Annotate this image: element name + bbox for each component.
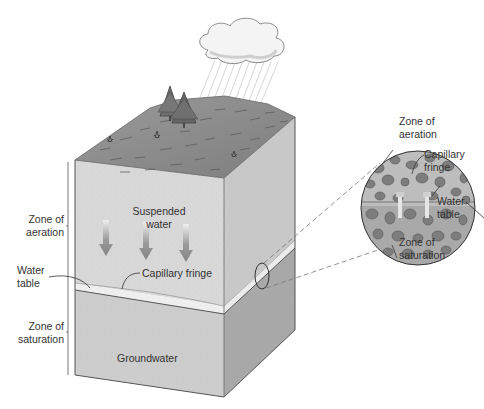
zone-of-saturation-line1: Zone of (0, 320, 64, 333)
inset-capillary-fringe-line2: fringe (424, 161, 465, 174)
inset-water-table-line2: table (437, 208, 465, 221)
zone-of-aeration-line1: Zone of (2, 213, 64, 226)
inset-zone-of-saturation-line2: saturation (399, 249, 445, 262)
zone-of-aeration-line2: aeration (2, 226, 64, 239)
inset-zone-of-aeration-line2: aeration (399, 128, 437, 141)
water-table-label: Water table (17, 264, 45, 289)
inset-water-table-line1: Water (437, 195, 465, 208)
inset-capillary-fringe-label: Capillary fringe (424, 148, 465, 173)
suspended-water-line1: Suspended (119, 205, 199, 218)
inset-capillary-fringe-line1: Capillary (424, 148, 465, 161)
inset-zone-of-aeration-line1: Zone of (399, 115, 437, 128)
zone-of-aeration-label: Zone of aeration (2, 213, 64, 238)
inset-water-table-label: Water table (437, 195, 465, 220)
zone-brackets (66, 162, 68, 375)
inset-zone-of-saturation-label: Zone of saturation (399, 236, 445, 261)
groundwater-diagram (0, 0, 484, 409)
water-table-line2: table (17, 277, 45, 290)
inset-zone-of-saturation-line1: Zone of (399, 236, 445, 249)
inset-zone-of-aeration-label: Zone of aeration (399, 115, 437, 140)
zone-of-saturation-line2: saturation (0, 333, 64, 346)
water-table-line1: Water (17, 264, 45, 277)
capillary-fringe-label: Capillary fringe (142, 267, 212, 280)
zone-of-saturation-label: Zone of saturation (0, 320, 64, 345)
suspended-water-line2: water (119, 218, 199, 231)
groundwater-label: Groundwater (117, 352, 178, 365)
suspended-water-label: Suspended water (119, 205, 199, 230)
